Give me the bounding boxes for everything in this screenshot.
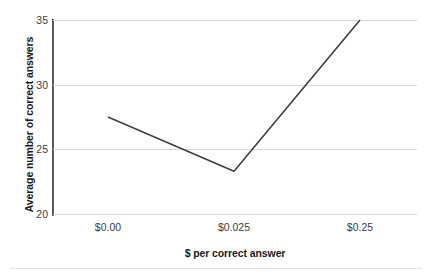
data-series-line [53, 20, 417, 214]
x-tick-label-0: $0.00 [95, 221, 121, 233]
line-chart-figure: Average number of correct answers 20 25 … [0, 0, 429, 279]
y-axis-tick-labels: 20 25 30 35 [28, 0, 48, 279]
bottom-divider [10, 268, 422, 269]
x-axis-title: $ per correct answer [53, 247, 417, 259]
y-tick-label-20: 20 [28, 208, 48, 220]
x-axis-tick-labels: $0.00 $0.025 $0.25 [53, 221, 417, 237]
plot-area [53, 20, 417, 214]
x-tick-label-1: $0.025 [218, 221, 250, 233]
y-tick-label-25: 25 [28, 143, 48, 155]
series-polyline [108, 20, 360, 171]
gridline-20 [53, 214, 417, 215]
x-tick-label-2: $0.25 [347, 221, 373, 233]
y-tick-label-30: 30 [28, 79, 48, 91]
y-tick-label-35: 35 [28, 14, 48, 26]
